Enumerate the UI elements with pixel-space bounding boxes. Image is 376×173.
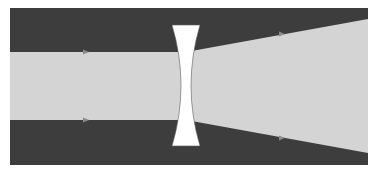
lens-diagram <box>0 0 376 173</box>
